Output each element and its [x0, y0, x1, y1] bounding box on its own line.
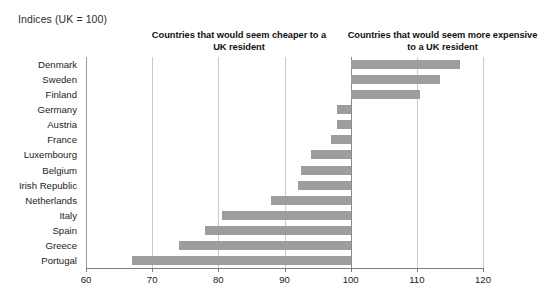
x-axis-label: 60 [66, 274, 106, 285]
y-axis-label: Netherlands [25, 193, 82, 208]
y-axis-label: Portugal [41, 253, 82, 268]
x-axis-tick [417, 268, 418, 272]
bar [351, 60, 460, 69]
x-axis-tick [483, 268, 484, 272]
chart-row [86, 193, 483, 208]
chart-row [86, 223, 483, 238]
y-axis-label: Belgium [42, 163, 82, 178]
chart-row [86, 57, 483, 72]
bar [222, 211, 351, 220]
chart-row [86, 117, 483, 132]
x-axis-tick [285, 268, 286, 272]
section-header-cheaper: Countries that would seem cheaper to a U… [150, 30, 328, 53]
bar [298, 181, 351, 190]
chart-row [86, 147, 483, 162]
bar [205, 226, 351, 235]
chart-row [86, 102, 483, 117]
x-axis-tick [351, 268, 352, 272]
x-axis-tick [152, 268, 153, 272]
bar [337, 105, 350, 114]
bar [271, 196, 350, 205]
y-axis-label: Finland [46, 87, 82, 102]
y-axis-label: Austria [47, 117, 82, 132]
x-axis-tick [218, 268, 219, 272]
y-axis-label: Greece [46, 238, 82, 253]
y-axis-label: Luxembourg [24, 147, 82, 162]
bar [351, 90, 420, 99]
x-axis-tick [86, 268, 87, 272]
chart-row [86, 208, 483, 223]
y-axis-label: Denmark [38, 57, 82, 72]
bar [337, 120, 350, 129]
y-axis-label: Italy [59, 208, 82, 223]
x-axis-label: 120 [463, 274, 503, 285]
x-axis-label: 90 [265, 274, 305, 285]
y-axis-label: Germany [38, 102, 82, 117]
x-axis-label: 100 [331, 274, 371, 285]
bar [331, 135, 351, 144]
chart-row [86, 87, 483, 102]
x-axis-label: 110 [397, 274, 437, 285]
bar [132, 256, 350, 265]
chart-row [86, 132, 483, 147]
y-axis-labels: DenmarkSwedenFinlandGermanyAustriaFrance… [0, 57, 82, 268]
y-axis-label: Irish Republic [19, 178, 82, 193]
x-axis-label: 80 [198, 274, 238, 285]
plot-area [86, 57, 483, 268]
chart-row [86, 163, 483, 178]
chart-row [86, 72, 483, 87]
chart-row [86, 178, 483, 193]
chart-row [86, 238, 483, 253]
y-axis-label: France [47, 132, 82, 147]
bar [179, 241, 351, 250]
y-axis-label: Spain [52, 223, 82, 238]
x-axis-label: 70 [132, 274, 172, 285]
chart-row [86, 253, 483, 268]
bar [301, 166, 351, 175]
chart-caption: Indices (UK = 100) [18, 13, 107, 25]
section-header-expensive: Countries that would seem more expensive… [345, 30, 540, 53]
y-axis-label: Sweden [42, 72, 82, 87]
gridline-120 [483, 57, 484, 268]
bar [351, 75, 440, 84]
bar [311, 150, 351, 159]
